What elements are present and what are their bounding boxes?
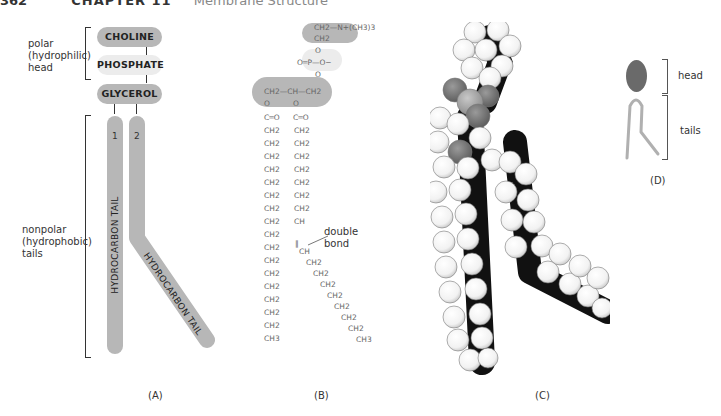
glycerol-group: GLYCEROL — [97, 84, 162, 104]
tail-1-text: HYDROCARBON TAIL — [110, 196, 120, 293]
chain-unit: CH2 — [264, 215, 280, 228]
chapter-label: CHAPTER 11 — [71, 0, 171, 8]
chain-unit: CH2 — [320, 280, 336, 290]
choline-group: CHOLINE — [97, 27, 162, 47]
double-bond-label: double bond — [324, 226, 358, 250]
tail-number-1: 1 — [112, 130, 118, 142]
chain-unit: CH2 — [294, 176, 310, 189]
chain-unit: CH2 — [264, 280, 280, 293]
chain-unit: CH2 — [264, 319, 280, 332]
chain-unit: CH2 — [264, 228, 280, 241]
head-label: head — [678, 70, 703, 82]
chain-unit: CH3 — [264, 332, 280, 345]
head-oval-icon — [626, 60, 647, 92]
label-line: bond — [324, 238, 358, 250]
space-filling-model — [430, 22, 610, 377]
carbonyl-2: C═O — [293, 113, 309, 123]
chain-unit: CH2 — [264, 241, 280, 254]
chain-unit: CH2 — [294, 202, 310, 215]
chain-unit: CH2 — [264, 267, 280, 280]
label-line: double — [324, 226, 358, 238]
chain-unit: CH2 — [294, 163, 310, 176]
tail-bracket — [85, 115, 91, 358]
chain-unit: CH2 — [264, 202, 280, 215]
label-line: head — [28, 62, 91, 74]
label-line: (hydrophobic) — [22, 236, 92, 248]
nonpolar-tail-label: nonpolar (hydrophobic) tails — [22, 224, 92, 260]
carbonyl-1: C═O — [264, 113, 280, 123]
ester-oxygen-2: O — [293, 99, 299, 109]
chain-unit: CH2 — [264, 124, 280, 137]
chain-unit: CH2 — [264, 189, 280, 202]
label-line: polar — [28, 38, 91, 50]
tails-label: tails — [680, 125, 701, 137]
label-line: nonpolar — [22, 224, 92, 236]
caption-a: (A) — [148, 390, 163, 401]
chain-unit: CH — [294, 215, 310, 228]
label-line: tails — [22, 248, 92, 260]
chapter-title: Membrane Structure — [194, 0, 328, 8]
chain-unit: CH2 — [341, 313, 357, 323]
chain-unit: CH2 — [334, 302, 350, 312]
chain-unit: CH2 — [294, 189, 310, 202]
ester-oxygen-1: O — [264, 99, 270, 109]
caption-d: (D) — [650, 175, 666, 186]
chain-unit: CH3 — [356, 335, 372, 345]
chain-unit: CH2 — [294, 137, 310, 150]
chain-unit: CH2 — [306, 258, 322, 268]
chain-unit: CH2 — [294, 124, 310, 137]
page-header: 362 CHAPTER 11 Membrane Structure — [0, 0, 328, 8]
bond-line — [146, 75, 147, 83]
chain-unit: CH2 — [264, 254, 280, 267]
tail-2-chain-straight: CH2 CH2 CH2 CH2 CH2 CH2 CH2 CH — [294, 124, 310, 228]
chain-unit: CH2 — [264, 150, 280, 163]
phosphate-formula: O═P—O− — [297, 58, 332, 68]
tails-bracket — [662, 95, 668, 160]
chain-unit: CH2 — [348, 324, 364, 334]
tail-number-2: 2 — [134, 130, 140, 142]
tail-1-chain: CH2 CH2 CH2 CH2 CH2 CH2 CH2 CH2 CH2 CH2 … — [264, 124, 280, 345]
chain-unit: CH2 — [313, 269, 329, 279]
chain-unit: CH2 — [327, 291, 343, 301]
choline-formula: CH2—N+(CH3)3 — [314, 23, 375, 33]
head-bracket — [662, 59, 668, 94]
bond-line — [146, 47, 147, 55]
glycerol-formula: CH2—CH—CH2 — [264, 87, 321, 97]
oxygen-atom: O — [315, 70, 321, 80]
caption-b: (B) — [314, 390, 329, 401]
oxygen-atom: O — [315, 46, 321, 56]
label-line: (hydrophilic) — [28, 50, 91, 62]
chain-unit: CH2 — [264, 293, 280, 306]
chain-unit: CH2 — [294, 150, 310, 163]
page-number: 362 — [0, 0, 27, 8]
chain-unit: CH2 — [264, 176, 280, 189]
head-bracket — [85, 27, 91, 80]
polar-head-label: polar (hydrophilic) head — [28, 38, 91, 74]
caption-c: (C) — [535, 390, 550, 401]
chain-unit: CH2 — [264, 163, 280, 176]
chain-unit: CH2 — [264, 137, 280, 150]
chain-unit: CH2 — [264, 306, 280, 319]
choline-ch2: CH2 — [314, 34, 330, 44]
phosphate-group: PHOSPHATE — [97, 55, 162, 75]
